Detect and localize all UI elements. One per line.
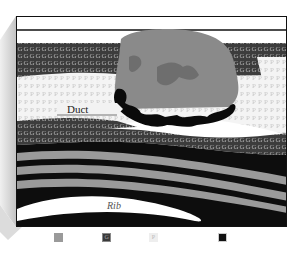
legend-item-parenchyma: P Parenchyma — [149, 232, 212, 243]
legend-label-fat: Fat — [115, 232, 129, 243]
cross-section-illustration: G P — [17, 17, 287, 227]
parenchyma-swatch-icon: P — [149, 233, 158, 242]
legend-item-ribcage: Rib cage — [218, 232, 266, 243]
ribcage-swatch-icon — [218, 233, 227, 242]
legend-item-muscle: Muscle — [54, 232, 96, 243]
cross-section-frame: G P — [16, 16, 287, 227]
rib-label: Rib — [107, 200, 121, 211]
diagram-stage: G P — [0, 0, 292, 259]
muscle-swatch-icon — [54, 233, 63, 242]
legend: Skin Muscle G Fat P Parenchyma Rib cage — [18, 229, 286, 245]
legend-label-skin: Skin — [31, 232, 48, 243]
duct-label: Duct — [67, 103, 88, 115]
legend-label-muscle: Muscle — [67, 232, 96, 243]
legend-label-parenchyma: Parenchyma — [162, 232, 212, 243]
skin-swatch-icon — [18, 233, 27, 242]
fat-swatch-icon: G — [102, 233, 111, 242]
legend-item-fat: G Fat — [102, 232, 129, 243]
legend-label-ribcage: Rib cage — [231, 232, 266, 243]
legend-item-skin: Skin — [18, 232, 48, 243]
